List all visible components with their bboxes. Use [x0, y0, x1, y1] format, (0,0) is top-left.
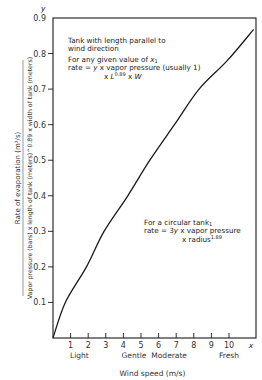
x-tick-label: 6 — [156, 341, 161, 350]
y-tick-label: 0.2 — [33, 263, 46, 272]
text: rate = — [68, 63, 93, 72]
y-tick-label: 0.5 — [33, 156, 46, 165]
y-axis-title-numerator: Rate of evaporation (m³/s) — [14, 131, 22, 224]
x-tick-label: 5 — [138, 341, 143, 350]
annotation-tank-parallel: Tank with length parallel to wind direct… — [68, 37, 200, 81]
x-axis-symbol: x — [248, 341, 254, 350]
x-tick-label: 1 — [68, 341, 73, 350]
x-tick-label: 3 — [103, 341, 108, 350]
y-tick-label: 0.1 — [33, 298, 46, 307]
wind-category-label: Light — [70, 351, 89, 360]
annotation-circular-tank: For a circular tank1 rate = 3y x vapor p… — [144, 219, 241, 244]
text: rate = 3 — [144, 226, 174, 235]
wind-category-label: Moderate — [151, 351, 187, 360]
x-axis-title: Wind speed (m/s) — [120, 369, 186, 378]
wind-category-label: Fresh — [219, 351, 239, 360]
text: x radius — [182, 235, 211, 244]
x-tick-label: 8 — [191, 341, 196, 350]
x-tick-label: 4 — [121, 341, 126, 350]
x-tick-label: 7 — [174, 341, 179, 350]
annotation-line: wind direction — [68, 45, 200, 53]
y-tick-label: 0.9 — [33, 14, 46, 23]
y-axis-title: Rate of evaporation (m³/s)Vapor pressure… — [14, 57, 34, 299]
exponent: 1.89 — [211, 234, 222, 240]
y-axis-symbol: y — [40, 4, 46, 13]
y-tick-label: 0.4 — [33, 192, 46, 201]
y-tick-label: 0.3 — [33, 227, 46, 236]
y-tick-label: 0.7 — [33, 85, 46, 94]
y-axis-ticks: 0.10.20.30.40.50.60.70.80.9y — [33, 4, 53, 307]
wind-category-label: Gentle — [122, 351, 147, 360]
x-tick-label: 2 — [86, 341, 91, 350]
variable-W: W — [135, 72, 142, 81]
y-axis-title-denominator: Vapor pressure (bars) x length of tank (… — [26, 57, 34, 299]
x-tick-label: 10 — [224, 341, 234, 350]
y-tick-label: 0.8 — [33, 50, 46, 59]
x-tick-label: 9 — [209, 341, 214, 350]
annotation-line: x radius1.89 — [144, 236, 241, 244]
y-tick-label: 0.6 — [33, 121, 46, 130]
annotation-line: x L0.89 x W — [68, 73, 200, 81]
exponent: 0.89 — [115, 71, 126, 77]
x-axis-ticks: 12345678910xLightGentleModerateFresh — [68, 333, 254, 360]
text: x — [126, 72, 135, 81]
